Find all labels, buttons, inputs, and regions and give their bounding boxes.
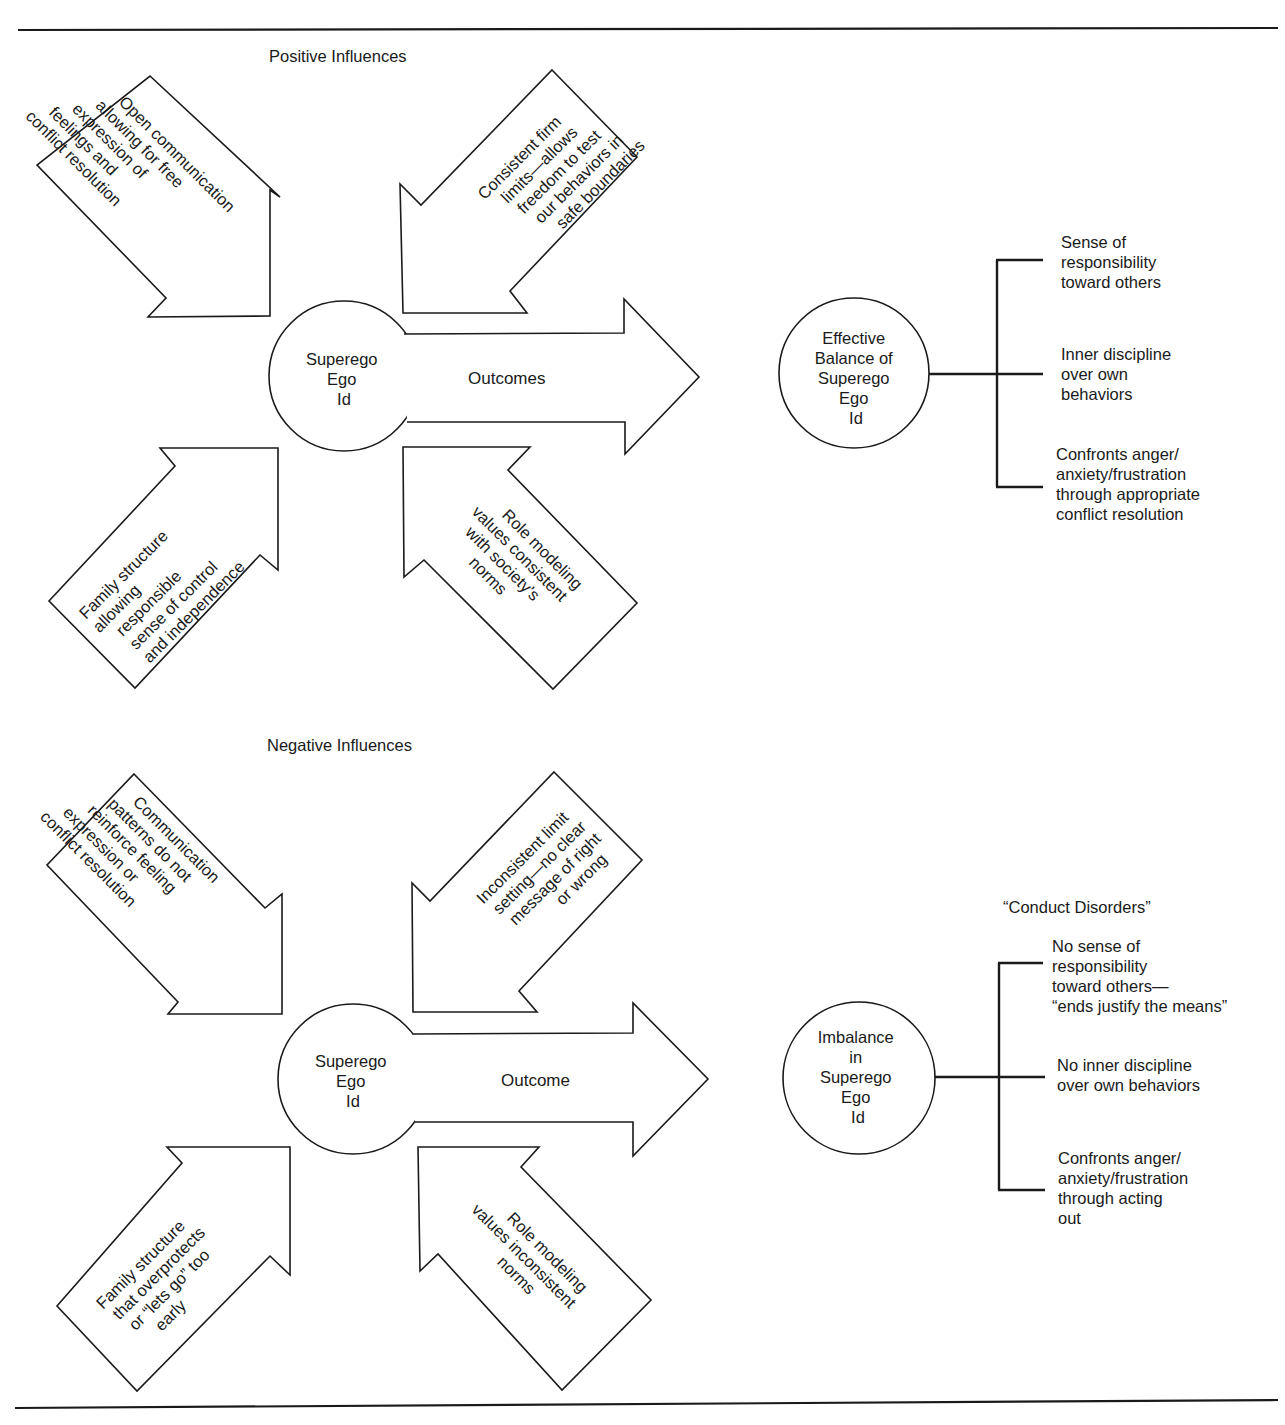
result-circle-effective-balance: Effective Balance of Superego Ego Id bbox=[779, 298, 929, 448]
outcome-label: Outcomes bbox=[468, 369, 545, 388]
negative-influences-section: Negative Influences Communication patter… bbox=[37, 736, 1227, 1391]
result-bracket bbox=[935, 963, 1045, 1190]
influence-arrow-role-modeling-inconsistent: Role modeling values inconsistent norms bbox=[418, 1147, 651, 1390]
outcome-arrow: Outcomes bbox=[404, 299, 699, 454]
bottom-rule bbox=[15, 1400, 1278, 1408]
influence-arrow-role-modeling: Role modeling values consistent with soc… bbox=[403, 447, 637, 689]
conduct-disorders-heading: “Conduct Disorders” bbox=[1003, 898, 1151, 916]
result-circle-imbalance: Imbalance in Superego Ego Id bbox=[783, 1002, 935, 1154]
influence-arrow-open-communication: Open communication allowing for free exp… bbox=[23, 53, 280, 317]
negative-heading: Negative Influences bbox=[267, 736, 412, 754]
influence-arrow-consistent-limits: Consistent firm limits—allows freedom to… bbox=[400, 70, 648, 313]
positive-influences-section: Positive Influences Open communication a… bbox=[23, 47, 1205, 689]
result-item: Confronts anger/ anxiety/frustration thr… bbox=[1058, 1149, 1193, 1227]
result-item: Sense of responsibility toward others bbox=[1061, 233, 1161, 291]
influence-arrow-communication-patterns: Communication patterns do not reinforce … bbox=[37, 754, 282, 1014]
outcome-arrow: Outcome bbox=[413, 1003, 708, 1156]
arrow-down-right-icon bbox=[47, 774, 282, 1014]
center-circle-superego-ego-id: Superego Ego Id bbox=[269, 301, 419, 451]
result-item: Confronts anger/ anxiety/frustration thr… bbox=[1056, 445, 1205, 523]
center-circle-superego-ego-id: Superego Ego Id bbox=[278, 1004, 428, 1154]
top-rule bbox=[18, 28, 1278, 30]
influence-arrow-inconsistent-limits: Inconsistent limit setting—no clear mess… bbox=[412, 772, 642, 1012]
outcome-label: Outcome bbox=[501, 1071, 570, 1090]
diagram-canvas: Positive Influences Open communication a… bbox=[0, 0, 1285, 1425]
arrow-right-icon bbox=[404, 299, 699, 454]
influence-arrow-family-structure: Family structure allowing responsible se… bbox=[49, 448, 278, 688]
result-item: Inner discipline over own behaviors bbox=[1061, 345, 1176, 403]
result-bracket bbox=[929, 260, 1043, 487]
influence-arrow-family-overprotects: Family structure that overprotects or “l… bbox=[57, 1147, 290, 1391]
result-item: No sense of responsibility toward others… bbox=[1052, 937, 1227, 1015]
positive-heading: Positive Influences bbox=[269, 47, 407, 65]
result-item: No inner discipline over own behaviors bbox=[1057, 1056, 1200, 1094]
